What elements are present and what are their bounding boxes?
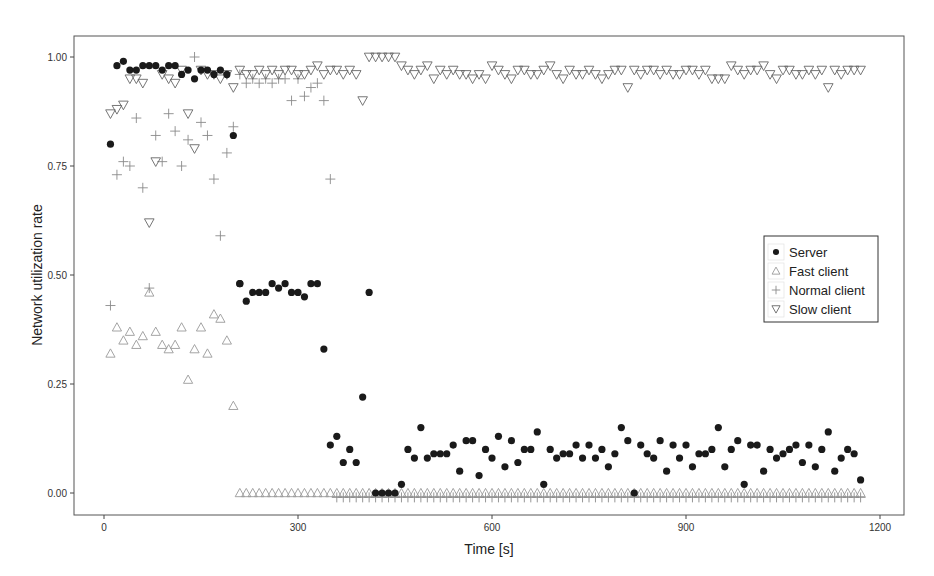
data-point bbox=[184, 66, 191, 73]
data-point bbox=[579, 455, 586, 462]
data-point bbox=[495, 433, 502, 440]
data-point bbox=[792, 441, 799, 448]
x-axis: 03006009001200 bbox=[101, 515, 891, 533]
data-point bbox=[398, 481, 405, 488]
data-point bbox=[488, 455, 495, 462]
x-tick-label: 300 bbox=[290, 522, 307, 533]
data-point bbox=[120, 58, 127, 65]
data-point bbox=[637, 441, 644, 448]
data-point bbox=[172, 62, 179, 69]
data-point bbox=[831, 468, 838, 475]
data-point bbox=[178, 71, 185, 78]
data-point bbox=[391, 489, 398, 496]
data-point bbox=[230, 132, 237, 139]
data-point bbox=[314, 280, 321, 287]
data-point bbox=[682, 441, 689, 448]
data-point bbox=[243, 298, 250, 305]
data-point bbox=[307, 280, 314, 287]
data-point bbox=[611, 450, 618, 457]
data-point bbox=[741, 481, 748, 488]
data-point bbox=[754, 441, 761, 448]
data-point bbox=[553, 455, 560, 462]
data-point bbox=[650, 455, 657, 462]
data-point bbox=[566, 450, 573, 457]
data-point bbox=[805, 441, 812, 448]
data-point bbox=[450, 441, 457, 448]
data-point bbox=[281, 280, 288, 287]
data-point bbox=[359, 393, 366, 400]
data-point bbox=[844, 446, 851, 453]
data-point bbox=[424, 455, 431, 462]
data-point bbox=[191, 75, 198, 82]
data-point bbox=[838, 455, 845, 462]
data-point bbox=[204, 66, 211, 73]
scatter-chart: 0.000.250.500.751.00 03006009001200 Time… bbox=[0, 0, 934, 576]
data-point bbox=[501, 463, 508, 470]
data-point bbox=[766, 446, 773, 453]
data-point bbox=[372, 489, 379, 496]
data-point bbox=[631, 489, 638, 496]
data-point bbox=[404, 446, 411, 453]
data-point bbox=[779, 450, 786, 457]
data-point bbox=[320, 346, 327, 353]
data-point bbox=[456, 468, 463, 475]
data-point bbox=[411, 455, 418, 462]
legend: ServerFast clientNormal clientSlow clien… bbox=[764, 236, 878, 322]
data-point bbox=[256, 289, 263, 296]
data-point bbox=[734, 437, 741, 444]
data-point bbox=[527, 446, 534, 453]
x-tick-label: 900 bbox=[678, 522, 695, 533]
data-point bbox=[508, 437, 515, 444]
data-point bbox=[165, 62, 172, 69]
data-point bbox=[385, 489, 392, 496]
data-point bbox=[482, 446, 489, 453]
data-point bbox=[702, 450, 709, 457]
legend-label: Slow client bbox=[789, 302, 852, 317]
data-point bbox=[249, 289, 256, 296]
legend-label: Fast client bbox=[789, 264, 849, 279]
data-point bbox=[624, 437, 631, 444]
data-point bbox=[236, 280, 243, 287]
data-point bbox=[353, 459, 360, 466]
data-point bbox=[514, 459, 521, 466]
data-point bbox=[708, 446, 715, 453]
data-point bbox=[618, 424, 625, 431]
data-point bbox=[818, 446, 825, 453]
x-tick-label: 600 bbox=[484, 522, 501, 533]
data-point bbox=[378, 489, 385, 496]
data-point bbox=[275, 284, 282, 291]
data-point bbox=[346, 446, 353, 453]
data-point bbox=[825, 428, 832, 435]
data-point bbox=[133, 66, 140, 73]
data-point bbox=[288, 289, 295, 296]
data-point bbox=[333, 433, 340, 440]
data-point bbox=[534, 428, 541, 435]
data-point bbox=[715, 424, 722, 431]
data-point bbox=[857, 476, 864, 483]
data-point bbox=[417, 424, 424, 431]
data-point bbox=[469, 437, 476, 444]
y-tick-label: 0.25 bbox=[48, 379, 68, 390]
data-point bbox=[139, 62, 146, 69]
y-axis-title: Network utilization rate bbox=[29, 204, 45, 346]
data-point bbox=[657, 437, 664, 444]
data-point bbox=[152, 62, 159, 69]
data-point bbox=[340, 459, 347, 466]
data-point bbox=[786, 446, 793, 453]
data-point bbox=[107, 141, 114, 148]
data-point bbox=[585, 441, 592, 448]
data-point bbox=[126, 66, 133, 73]
data-point bbox=[644, 450, 651, 457]
data-point bbox=[760, 468, 767, 475]
legend-label: Server bbox=[789, 245, 828, 260]
legend-marker-icon bbox=[773, 249, 779, 255]
data-point bbox=[592, 455, 599, 462]
data-point bbox=[605, 463, 612, 470]
y-axis: 0.000.250.500.751.00 bbox=[48, 52, 74, 499]
data-point bbox=[721, 463, 728, 470]
data-point bbox=[676, 455, 683, 462]
data-point bbox=[669, 441, 676, 448]
data-point bbox=[262, 289, 269, 296]
data-point bbox=[301, 293, 308, 300]
data-point bbox=[475, 472, 482, 479]
